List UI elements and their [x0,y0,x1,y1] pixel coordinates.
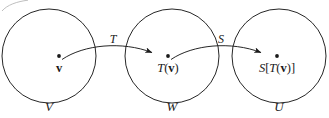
point-label-v: v [56,62,62,75]
point-label-STv: S[T(v)] [259,62,295,75]
point-dot-Tv [166,54,170,58]
set-circle-domain [2,9,96,103]
arrow-path-S [171,46,261,60]
linear-transformation-diagram: V W U T S v T(v) S[T(v)] [0,0,329,118]
point-label-Tv: T(v) [157,62,179,75]
set-label-U: U [274,100,283,113]
set-circle-codomain-1 [125,9,219,103]
set-label-W: W [167,100,178,113]
set-label-V: V [45,100,53,113]
arrow-path-T [62,46,152,60]
set-circle-codomain-2 [232,9,326,103]
arrow-label-S: S [218,33,224,45]
point-dot-v [57,54,61,58]
crop-artifact-arc [2,0,28,11]
point-dot-STv [275,54,279,58]
arrow-label-T: T [110,33,117,45]
